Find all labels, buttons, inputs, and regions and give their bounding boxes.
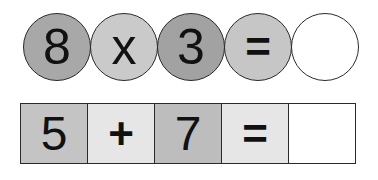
circle-answer-blank[interactable] (291, 13, 359, 81)
box-operator-plus: + (88, 104, 155, 163)
addition-equation-row: 5 + 7 = (20, 103, 356, 164)
circle-equals: = (224, 13, 292, 81)
circle-operator-multiply: x (90, 13, 158, 81)
circle-operand-2: 3 (157, 13, 225, 81)
box-answer-blank[interactable] (289, 104, 355, 163)
box-operand-2: 7 (155, 104, 222, 163)
box-equals: = (222, 104, 289, 163)
circle-operand-1: 8 (23, 13, 91, 81)
box-operand-1: 5 (21, 104, 88, 163)
